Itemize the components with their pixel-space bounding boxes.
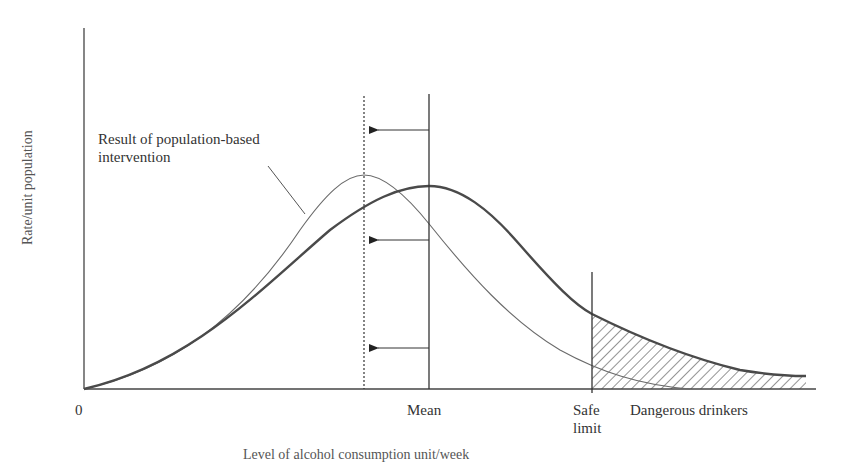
safe-limit-label-line2: limit bbox=[573, 420, 601, 437]
dangerous-drinkers-label: Dangerous drinkers bbox=[630, 402, 748, 419]
original-distribution-curve bbox=[84, 186, 806, 389]
annotation-leader-line bbox=[268, 166, 305, 214]
annotation-label-line1: Result of population-based bbox=[98, 131, 260, 148]
origin-label: 0 bbox=[75, 402, 83, 419]
safe-limit-label-line1: Safe bbox=[573, 402, 600, 419]
x-axis-label: Level of alcohol consumption unit/week bbox=[243, 446, 469, 463]
mean-label: Mean bbox=[407, 402, 441, 419]
annotation-label-line2: intervention bbox=[98, 149, 170, 166]
dangerous-drinkers-hatch bbox=[592, 314, 806, 389]
y-axis-label: Rate/unit population bbox=[20, 130, 36, 245]
